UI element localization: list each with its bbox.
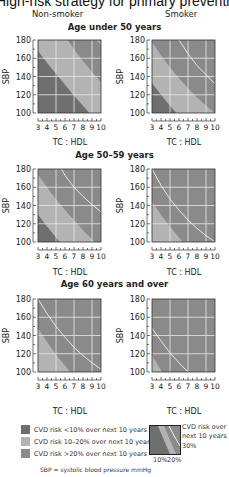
svg-text:9: 9 — [204, 123, 209, 132]
svg-text:3: 3 — [150, 252, 155, 261]
svg-text:SBP: SBP — [116, 198, 125, 214]
svg-text:4: 4 — [159, 382, 164, 391]
svg-text:100: 100 — [130, 109, 145, 118]
column-header-non-smoker: Non-smoker — [32, 9, 83, 19]
svg-text:5: 5 — [168, 123, 173, 132]
chart-panel-nonsmoker-50-59: 100120140160180SBP345678910 — [0, 161, 115, 279]
svg-text:160: 160 — [16, 313, 31, 322]
svg-text:9: 9 — [204, 252, 209, 261]
svg-text:SBP: SBP — [116, 69, 125, 85]
key-label-30: 30% — [182, 442, 196, 451]
risk-chart: 100120140160180SBP345678910 — [0, 291, 115, 409]
risk-key-box — [149, 425, 181, 455]
legend-swatch-high — [21, 449, 30, 458]
svg-text:SBP: SBP — [2, 198, 11, 214]
x-axis-label: TC : HDL — [144, 268, 224, 277]
risk-chart: 100120140160180SBP345678910 — [0, 161, 115, 279]
legend-label: CVD risk <10% over next 10 years — [34, 426, 147, 434]
svg-text:3: 3 — [36, 382, 41, 391]
svg-text:180: 180 — [16, 165, 31, 174]
legend-label: CVD risk >20% over next 10 years — [34, 450, 147, 458]
svg-text:120: 120 — [16, 91, 31, 100]
age-heading-50-59: Age 50–59 years — [0, 150, 229, 160]
key-label-10: 10% — [153, 456, 167, 465]
svg-text:7: 7 — [72, 382, 77, 391]
svg-text:9: 9 — [90, 382, 95, 391]
svg-text:7: 7 — [186, 382, 191, 391]
x-axis-label: TC : HDL — [30, 138, 110, 147]
svg-text:8: 8 — [195, 123, 200, 132]
svg-text:120: 120 — [16, 220, 31, 229]
risk-chart: 100120140160180SBP345678910 — [114, 161, 229, 279]
legend-label: CVD risk 10–20% over next 10 years — [34, 438, 153, 446]
svg-text:4: 4 — [45, 382, 50, 391]
svg-text:6: 6 — [63, 252, 68, 261]
svg-text:6: 6 — [177, 382, 182, 391]
svg-text:9: 9 — [204, 382, 209, 391]
age-heading-60-over: Age 60 years and over — [0, 279, 229, 289]
svg-text:180: 180 — [130, 295, 145, 304]
svg-text:4: 4 — [45, 123, 50, 132]
svg-text:10: 10 — [96, 123, 106, 132]
svg-text:5: 5 — [168, 382, 173, 391]
svg-text:8: 8 — [195, 382, 200, 391]
legend-swatch-mid — [21, 437, 30, 446]
svg-text:SBP: SBP — [2, 328, 11, 344]
svg-text:4: 4 — [159, 252, 164, 261]
key-text-line1: CVD risk over — [182, 423, 226, 432]
svg-text:160: 160 — [16, 183, 31, 192]
svg-text:180: 180 — [130, 36, 145, 45]
chart-panel-nonsmoker-60-over: 100120140160180SBP345678910 — [0, 291, 115, 409]
svg-text:100: 100 — [130, 238, 145, 247]
svg-text:140: 140 — [16, 202, 31, 211]
svg-text:3: 3 — [150, 382, 155, 391]
svg-text:120: 120 — [130, 91, 145, 100]
legend-item-mid-risk: CVD risk 10–20% over next 10 years — [21, 437, 153, 446]
svg-text:140: 140 — [16, 332, 31, 341]
svg-text:180: 180 — [16, 295, 31, 304]
svg-text:120: 120 — [16, 350, 31, 359]
svg-text:3: 3 — [36, 123, 41, 132]
x-axis-label: TC : HDL — [144, 407, 224, 416]
svg-text:10: 10 — [96, 252, 106, 261]
chart-panel-smoker-50-59: 100120140160180SBP345678910 — [114, 161, 229, 279]
svg-text:180: 180 — [130, 165, 145, 174]
svg-text:5: 5 — [54, 382, 59, 391]
svg-text:100: 100 — [16, 109, 31, 118]
column-header-smoker: Smoker — [165, 9, 197, 19]
chart-panel-smoker-under50: 100120140160180SBP345678910 — [114, 32, 229, 150]
svg-text:7: 7 — [186, 123, 191, 132]
svg-text:5: 5 — [54, 252, 59, 261]
risk-chart: 100120140160180SBP345678910 — [114, 32, 229, 150]
svg-text:100: 100 — [130, 368, 145, 377]
svg-text:7: 7 — [186, 252, 191, 261]
x-axis-label: TC : HDL — [144, 138, 224, 147]
svg-text:140: 140 — [130, 202, 145, 211]
svg-text:SBP: SBP — [116, 328, 125, 344]
svg-text:10: 10 — [210, 123, 220, 132]
footnote: SBP = systolic blood pressure mmHg — [40, 466, 151, 473]
svg-text:160: 160 — [130, 54, 145, 63]
svg-text:9: 9 — [90, 123, 95, 132]
svg-text:180: 180 — [16, 36, 31, 45]
svg-text:7: 7 — [72, 252, 77, 261]
svg-text:140: 140 — [130, 332, 145, 341]
svg-text:8: 8 — [81, 382, 86, 391]
svg-text:10: 10 — [210, 382, 220, 391]
key-text-line2: next 10 years — [182, 432, 227, 441]
svg-text:140: 140 — [130, 73, 145, 82]
svg-text:6: 6 — [177, 252, 182, 261]
svg-text:160: 160 — [16, 54, 31, 63]
x-axis-label: TC : HDL — [30, 268, 110, 277]
svg-text:10: 10 — [210, 252, 220, 261]
svg-text:8: 8 — [195, 252, 200, 261]
svg-text:3: 3 — [150, 123, 155, 132]
svg-text:7: 7 — [72, 123, 77, 132]
svg-text:6: 6 — [177, 123, 182, 132]
svg-text:120: 120 — [130, 350, 145, 359]
svg-text:9: 9 — [90, 252, 95, 261]
svg-text:4: 4 — [45, 252, 50, 261]
svg-text:100: 100 — [16, 238, 31, 247]
svg-text:120: 120 — [130, 220, 145, 229]
legend-swatch-low — [21, 425, 30, 434]
